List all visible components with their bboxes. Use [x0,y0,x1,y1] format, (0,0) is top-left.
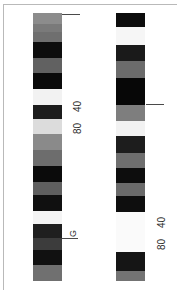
lane-band [33,134,62,149]
lane-band [33,58,62,72]
lane-band [33,166,62,181]
lane-band [116,168,145,183]
tick-mark-left-lower [62,238,78,239]
lane-band [33,182,62,195]
lane-band [33,119,62,134]
lane-band [116,27,145,44]
page-background [0,0,179,292]
lane-band [116,45,145,61]
lane-band [33,24,62,33]
lane-band [33,224,62,238]
lane-band [116,121,145,136]
lane-strip-right [116,13,145,281]
lane-band [116,136,145,152]
axis-label-right-40: 40 [156,217,167,228]
axis-label-left-80: 80 [72,123,83,134]
lane-band [33,211,62,224]
tick-mark-right-upper [146,104,164,105]
lane-band [33,250,62,265]
lane-band [116,212,145,252]
lane-band [116,13,145,27]
lane-band [116,271,145,281]
lane-band [116,105,145,121]
lane-band [116,61,145,78]
axis-label-left-40: 40 [72,101,83,112]
tick-mark-left-top [62,14,80,15]
lane-band [33,105,62,119]
lane-band [116,153,145,168]
lane-band [33,150,62,166]
lane-band [33,73,62,89]
lane-band [116,78,145,105]
lane-band [116,183,145,195]
axis-label-right-80: 80 [156,239,167,250]
lane-band [33,195,62,211]
lane-band [33,89,62,104]
lane-band [33,42,62,58]
lane-band [116,252,145,271]
lane-band [33,238,62,250]
lane-band [33,265,62,280]
lane-band [33,13,62,24]
lane-strip-left [33,13,62,281]
lane-band [33,32,62,42]
figure-page: 80 40 G 80 40 [0,0,179,292]
axis-label-left-extra: G [68,230,78,237]
lane-band [116,196,145,212]
